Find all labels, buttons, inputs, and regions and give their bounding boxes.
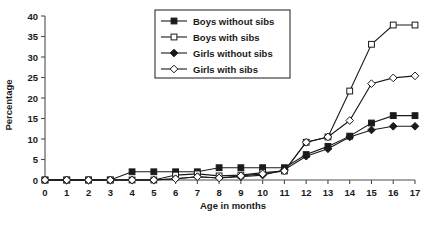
data-point-marker — [347, 88, 353, 94]
data-point-marker — [151, 169, 157, 175]
line-chart: 0510152025303540 01234567891011121314151… — [0, 0, 430, 225]
x-tick-label: 6 — [173, 187, 178, 198]
chart-legend: Boys without sibsBoys with sibsGirls wit… — [155, 10, 290, 78]
data-point-marker — [216, 165, 222, 171]
data-point-marker — [368, 126, 376, 134]
data-point-marker — [390, 22, 396, 28]
x-tick-label: 10 — [257, 187, 268, 198]
legend-item-label: Boys without sibs — [193, 16, 274, 27]
y-tick-label: 10 — [27, 134, 38, 145]
y-axis-title: Percentage — [3, 79, 14, 130]
x-tick-label: 9 — [238, 187, 243, 198]
x-tick-label: 15 — [366, 187, 377, 198]
y-tick-label: 30 — [27, 52, 38, 63]
data-point-marker — [389, 122, 397, 130]
data-point-marker — [411, 72, 419, 80]
x-tick-label: 3 — [108, 187, 113, 198]
x-axis-title: Age in months — [200, 200, 266, 211]
data-point-marker — [390, 113, 396, 119]
y-tick-label: 25 — [27, 72, 38, 83]
y-axis: 0510152025303540 — [27, 11, 45, 186]
legend-item-label: Girls with sibs — [193, 64, 258, 75]
series-line — [45, 76, 415, 180]
x-tick-label: 1 — [64, 187, 70, 198]
x-tick-label: 5 — [151, 187, 157, 198]
y-tick-label: 40 — [27, 11, 38, 22]
data-point-marker — [368, 80, 376, 88]
x-tick-label: 12 — [301, 187, 312, 198]
series-line — [45, 126, 415, 180]
legend-marker-icon — [171, 34, 177, 40]
data-point-marker — [369, 41, 375, 47]
data-series — [41, 122, 419, 183]
series-line — [45, 116, 415, 180]
data-point-marker — [129, 169, 135, 175]
y-tick-label: 20 — [27, 93, 38, 104]
x-tick-label: 4 — [129, 187, 135, 198]
x-tick-label: 11 — [279, 187, 290, 198]
y-tick-label: 35 — [27, 31, 38, 42]
x-axis: 01234567891011121314151617 — [42, 180, 420, 198]
x-tick-label: 7 — [195, 187, 200, 198]
x-tick-label: 0 — [42, 187, 47, 198]
x-tick-label: 16 — [388, 187, 399, 198]
legend-item-label: Girls without sibs — [193, 48, 273, 59]
data-point-marker — [411, 122, 419, 130]
x-tick-label: 13 — [323, 187, 334, 198]
x-tick-label: 2 — [86, 187, 91, 198]
data-point-marker — [412, 113, 418, 119]
data-point-marker — [369, 120, 375, 126]
data-point-marker — [389, 74, 397, 82]
data-series — [42, 113, 418, 183]
y-tick-label: 15 — [27, 113, 38, 124]
x-tick-label: 14 — [344, 187, 355, 198]
y-tick-label: 0 — [33, 175, 38, 186]
legend-marker-icon — [171, 18, 177, 24]
y-tick-label: 5 — [33, 154, 39, 165]
data-series — [41, 72, 419, 184]
x-tick-label: 17 — [410, 187, 421, 198]
data-point-marker — [412, 22, 418, 28]
data-point-marker — [238, 165, 244, 171]
legend-item-label: Boys with sibs — [193, 32, 260, 43]
x-tick-label: 8 — [216, 187, 221, 198]
chart-container: 0510152025303540 01234567891011121314151… — [0, 0, 430, 225]
